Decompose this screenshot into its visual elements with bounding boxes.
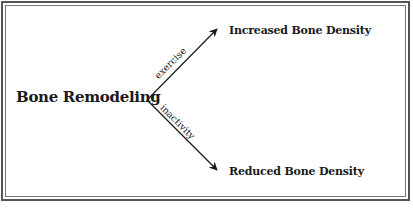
target-reduced-label: Reduced Bone Density [229,165,364,178]
arrow-to-reduced [147,100,217,170]
root-node-label: Bone Remodeling [16,88,161,106]
target-increased-label: Increased Bone Density [229,24,371,37]
